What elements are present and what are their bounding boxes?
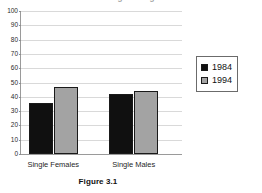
legend-swatch-icon — [201, 64, 208, 71]
gridline — [21, 25, 182, 26]
gridline — [21, 68, 182, 69]
chart-legend: 19841994 — [196, 56, 238, 92]
y-axis-tickmark — [19, 140, 21, 141]
y-axis-tick-label: 20 — [11, 122, 18, 129]
y-axis-tickmark — [19, 97, 21, 98]
legend-label: 1994 — [212, 76, 232, 85]
gridline — [21, 54, 182, 55]
bar-1984-single-males — [109, 94, 133, 154]
legend-item-1984: 1984 — [201, 61, 232, 74]
y-axis-tickmark — [19, 54, 21, 55]
x-axis-baseline — [21, 154, 182, 155]
y-axis-tick-label: 10 — [11, 136, 18, 143]
figure-caption: Figure 3.1 — [0, 177, 196, 186]
y-axis-tickmark — [19, 154, 21, 155]
y-axis-tickmark — [19, 25, 21, 26]
gridline — [21, 40, 182, 41]
y-axis-tickmark — [19, 125, 21, 126]
gridline — [21, 11, 182, 12]
y-axis-tick-label: 100 — [7, 8, 18, 15]
gridline — [21, 83, 182, 84]
y-axis-tickmark — [19, 83, 21, 84]
category-label-single-males: Single Males — [112, 161, 155, 169]
legend-swatch-icon — [201, 77, 208, 84]
y-axis-tick-label: 40 — [11, 94, 18, 101]
y-axis-tickmark — [19, 68, 21, 69]
legend-item-1994: 1994 — [201, 74, 232, 87]
y-axis-tick-label: 30 — [11, 108, 18, 115]
y-axis-tick-label: 50 — [11, 79, 18, 86]
bar-1984-single-females — [29, 103, 53, 154]
category-label-single-females: Single Females — [27, 161, 79, 169]
y-axis-tickmark — [19, 40, 21, 41]
y-axis-tick-label: 0 — [14, 151, 18, 158]
y-axis-tick-label: 90 — [11, 22, 18, 29]
y-axis-tickmark — [19, 111, 21, 112]
y-axis-tick-label: 60 — [11, 65, 18, 72]
legend-label: 1984 — [212, 63, 232, 72]
cropped-chart-title: Percentage Living Alone — [0, 0, 262, 2]
y-axis-tickmark — [19, 11, 21, 12]
y-axis-tick-label: 80 — [11, 36, 18, 43]
bar-1994-single-females — [54, 87, 78, 154]
bar-1994-single-males — [134, 91, 158, 154]
y-axis-tick-label: 70 — [11, 51, 18, 58]
